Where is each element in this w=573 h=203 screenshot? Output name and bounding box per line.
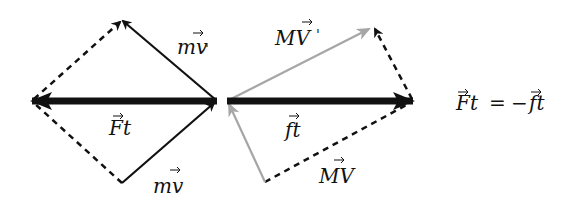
dashed-line-left-bottom: [34, 103, 122, 183]
vector-arrow-accent: [334, 157, 344, 163]
label-ft: ft: [283, 113, 301, 142]
label-MV: MV: [318, 157, 356, 188]
label-mv-prime: mv ': [177, 30, 209, 59]
svg-text:Ft: Ft: [108, 116, 132, 140]
svg-text:ft: ft: [527, 91, 545, 115]
vector-MV: [229, 104, 265, 182]
svg-text:': ': [205, 41, 209, 57]
dashed-arrow-left-top: [34, 22, 120, 99]
label-mv: mv: [153, 167, 184, 198]
label-MV-prime: MV ': [274, 19, 320, 50]
svg-text:MV: MV: [318, 164, 356, 188]
dashed-arrow-right-top: [375, 29, 412, 99]
svg-text:mv: mv: [153, 174, 184, 198]
vector-mv: [122, 103, 214, 183]
momentum-vector-diagram: mv ' Ft mv MV ' ft MV Ft = − ft: [0, 0, 573, 203]
vector-arrow-accent: [302, 19, 312, 25]
svg-text:ft: ft: [283, 118, 301, 142]
equation-Ft-equals-minus-ft: Ft = − ft: [455, 89, 545, 115]
svg-text:−: −: [511, 91, 528, 115]
label-Ft: Ft: [108, 113, 132, 140]
right-vector-group: [227, 29, 413, 182]
vector-arrow-accent: [170, 167, 180, 173]
svg-text:MV: MV: [274, 26, 312, 50]
svg-text:': ': [316, 27, 320, 43]
svg-text:=: =: [489, 91, 506, 115]
svg-text:mv: mv: [177, 35, 208, 59]
svg-text:Ft: Ft: [455, 91, 479, 115]
